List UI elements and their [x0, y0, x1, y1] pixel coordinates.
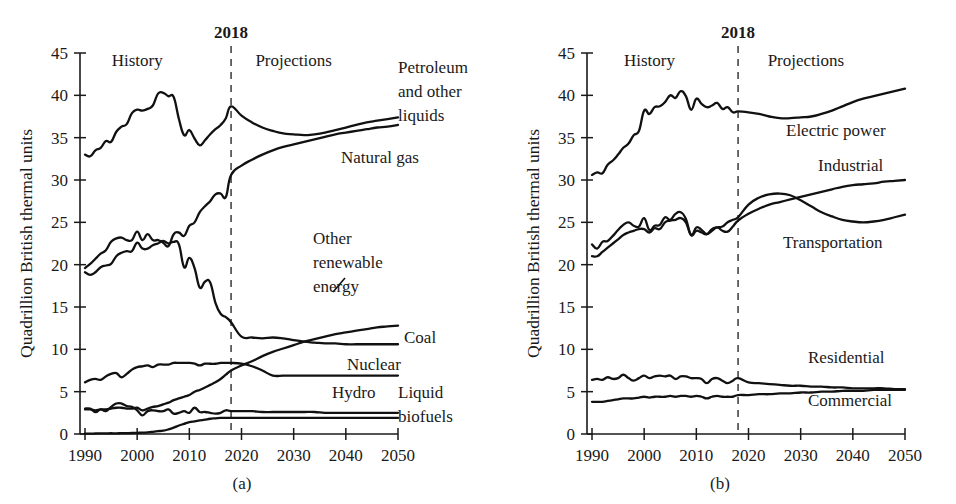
y-tick-label-15: 15	[558, 298, 575, 317]
x-tick-label-1990: 1990	[575, 446, 609, 465]
series-label-nuclear: Nuclear	[347, 355, 401, 374]
y-tick-label-30: 30	[51, 171, 68, 190]
panel-a-svg: 051015202530354045 199020002010202020302…	[0, 0, 478, 504]
y-tick-label-0: 0	[60, 425, 69, 444]
series-label-other-renewable-line1: Other	[313, 229, 352, 248]
y-tick-label-45: 45	[51, 44, 68, 63]
y-tick-label-45: 45	[558, 44, 575, 63]
x-tick-label-2030: 2030	[784, 446, 818, 465]
series-label-transportation: Transportation	[783, 233, 883, 252]
x-tick-label-2030: 2030	[277, 446, 311, 465]
y-tick-label-15: 15	[51, 298, 68, 317]
x-tick-label-2020: 2020	[732, 446, 766, 465]
chart-panel-b: 051015202530354045 199020002010202020302…	[478, 0, 956, 504]
x-tick-label-2050: 2050	[888, 446, 922, 465]
y-axis-title-a: Quadrillion British thermal units	[16, 129, 36, 358]
y-axis-title-b: Quadrillion British thermal units	[523, 129, 543, 358]
divider-year-label-b: 2018	[721, 23, 755, 42]
series-label-residential: Residential	[808, 348, 885, 367]
divider-year-label-a: 2018	[214, 23, 248, 42]
series-label-electric-power: Electric power	[786, 121, 886, 140]
x-tick-label-2000: 2000	[120, 446, 154, 465]
era-label-history-b: History	[624, 51, 676, 70]
series-label-liquid-biofuels-line1: Liquid	[398, 383, 444, 402]
series-path-residential	[592, 375, 905, 389]
series-label-hydro: Hydro	[332, 383, 375, 402]
y-tick-label-10: 10	[558, 340, 575, 359]
x-tick-label-2000: 2000	[627, 446, 661, 465]
y-tick-label-20: 20	[51, 256, 68, 275]
series-label-natural-gas: Natural gas	[341, 148, 419, 167]
x-tick-label-2040: 2040	[836, 446, 870, 465]
x-tick-label-1990: 1990	[68, 446, 102, 465]
series-label-petroleum-line1: Petroleum	[398, 58, 468, 77]
x-tick-label-2010: 2010	[172, 446, 206, 465]
chart-panel-a: 051015202530354045 199020002010202020302…	[0, 0, 478, 504]
series-label-commercial: Commercial	[808, 391, 892, 410]
series-label-other-renewable-line2: renewable	[313, 253, 383, 272]
era-label-projections-a: Projections	[255, 51, 332, 70]
y-tick-label-40: 40	[558, 86, 575, 105]
x-tick-label-2050: 2050	[381, 446, 415, 465]
y-tick-label-5: 5	[567, 383, 576, 402]
x-tick-label-2010: 2010	[679, 446, 713, 465]
energy-consumption-figure: 051015202530354045 199020002010202020302…	[0, 0, 956, 504]
era-label-history-a: History	[112, 51, 164, 70]
y-tick-label-35: 35	[558, 129, 575, 148]
panel-b-svg: 051015202530354045 199020002010202020302…	[478, 0, 956, 504]
series-label-liquid-biofuels-line2: biofuels	[398, 407, 453, 426]
era-label-projections-b: Projections	[768, 51, 845, 70]
series-label-other-renewable-line3: energy	[313, 277, 359, 296]
panel-caption-b: (b)	[710, 474, 730, 493]
y-tick-label-5: 5	[60, 383, 69, 402]
series-label-industrial: Industrial	[818, 156, 883, 175]
series-label-coal: Coal	[404, 328, 436, 347]
y-tick-label-20: 20	[558, 256, 575, 275]
x-tick-label-2040: 2040	[329, 446, 363, 465]
y-tick-label-35: 35	[51, 129, 68, 148]
x-tick-label-2020: 2020	[225, 446, 259, 465]
y-tick-label-10: 10	[51, 340, 68, 359]
y-tick-label-0: 0	[567, 425, 576, 444]
y-tick-label-25: 25	[51, 213, 68, 232]
y-tick-label-25: 25	[558, 213, 575, 232]
series-path-petroleum-and-other-liquids	[85, 92, 398, 157]
panel-caption-a: (a)	[233, 474, 252, 493]
series-label-petroleum-line3: liquids	[398, 106, 444, 125]
y-tick-label-40: 40	[51, 86, 68, 105]
y-tick-label-30: 30	[558, 171, 575, 190]
series-label-petroleum-line2: and other	[398, 82, 462, 101]
